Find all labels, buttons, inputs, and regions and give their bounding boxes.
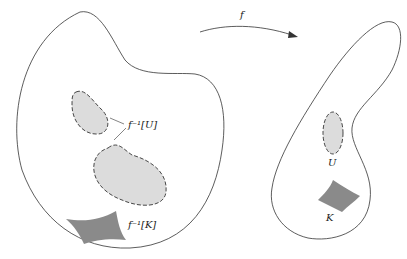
K-label: K (326, 212, 333, 223)
map-arrow (200, 26, 292, 35)
preimage-K-region (66, 211, 126, 244)
map-label: f (240, 9, 244, 20)
preimage-U-lower (94, 145, 166, 205)
U-region (323, 112, 343, 154)
K-region (318, 180, 360, 212)
preimage-K-label: f⁻¹[K] (128, 219, 156, 230)
U-label: U (328, 157, 336, 168)
leader-line-lower (114, 128, 126, 140)
leader-line-upper (110, 118, 124, 124)
arrowhead-icon (288, 31, 298, 38)
domain-region (17, 12, 224, 248)
preimage-U-label: f⁻¹[U] (128, 119, 157, 130)
diagram-canvas (0, 0, 407, 259)
preimage-U-upper (72, 91, 108, 134)
